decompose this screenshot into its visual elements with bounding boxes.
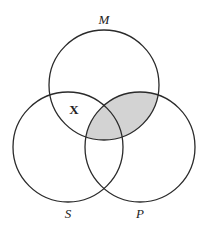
label-m: M	[98, 12, 111, 27]
mark-x: X	[69, 102, 79, 117]
label-s: S	[65, 206, 72, 221]
circle-s	[13, 92, 123, 202]
label-p: P	[135, 206, 144, 221]
venn-diagram: M S P X	[0, 0, 205, 230]
